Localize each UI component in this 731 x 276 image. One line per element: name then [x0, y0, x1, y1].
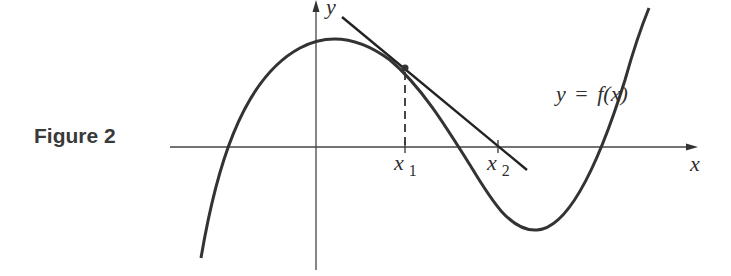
function-curve — [201, 8, 649, 258]
x1-label: x 1 — [393, 150, 417, 179]
curve-equation-label: y = f(x) — [554, 81, 628, 106]
x-axis-label: x — [689, 151, 700, 176]
x-axis — [170, 144, 698, 151]
newton-method-diagram: y x x 1 x 2 y = f(x) — [0, 0, 731, 276]
y-axis-label: y — [324, 0, 336, 19]
tangent-point — [402, 65, 409, 72]
